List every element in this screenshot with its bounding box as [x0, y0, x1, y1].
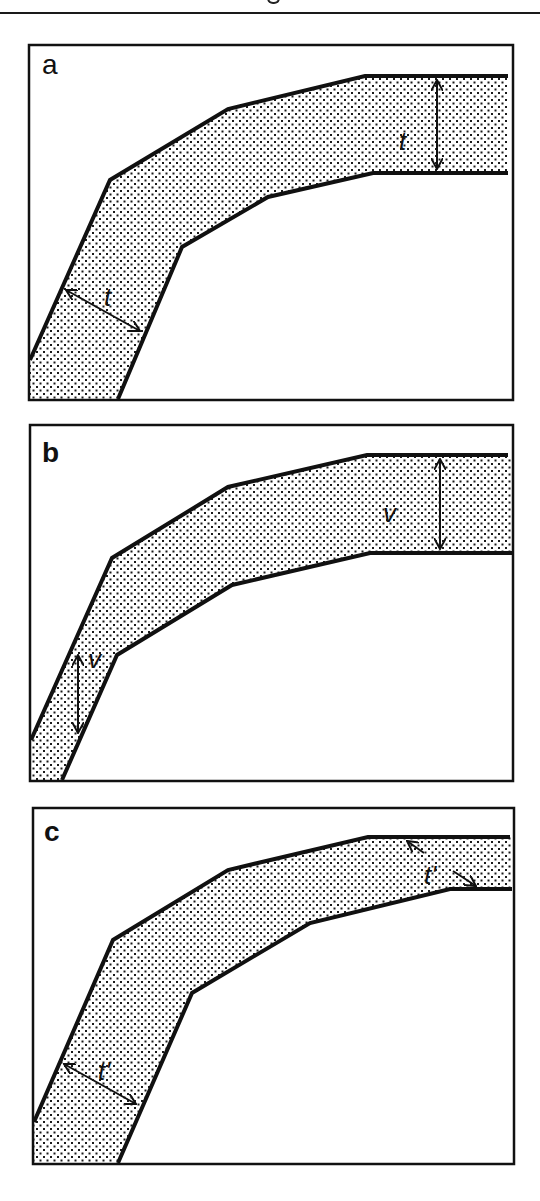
panel-c-symbol-left: t' [98, 1056, 111, 1086]
fold-figure: a t t b v v c t' t' [0, 0, 540, 1201]
panel-b-symbol-right: v [383, 498, 398, 528]
panel-c-layer-fill [34, 837, 512, 1163]
panel-a-label: a [42, 49, 58, 80]
panel-c: c t' t' [33, 808, 514, 1164]
panel-c-symbol-right: t' [424, 860, 437, 890]
panel-a: a t t [29, 45, 513, 400]
panel-b: b v v [30, 425, 513, 781]
panel-c-label: c [44, 816, 60, 847]
panel-b-symbol-left: v [88, 644, 103, 674]
panel-b-label: b [42, 437, 59, 468]
